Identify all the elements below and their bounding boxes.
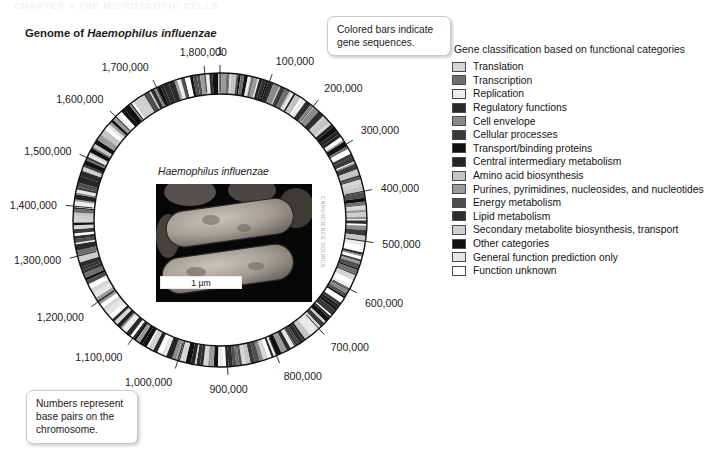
tick-label: 300,000	[361, 124, 399, 136]
legend-swatch	[452, 266, 466, 276]
page-header: CHAPTER 4 THE MICROSCOPIC CELLS	[14, 1, 219, 11]
tick-label: 600,000	[365, 297, 403, 309]
legend-swatch	[452, 89, 466, 99]
legend-swatch	[452, 171, 466, 181]
tick-label: 900,000	[209, 383, 247, 395]
tick-label: 1,200,000	[37, 311, 84, 323]
micrograph-caption: Haemophilus influenzae	[158, 166, 269, 177]
photo-credit: CNRI/SCIENCE SOURCE	[314, 196, 326, 268]
legend-item: Translation	[452, 60, 714, 74]
tick-label: 1,400,000	[10, 199, 57, 211]
legend: Gene classification based on functional …	[452, 44, 714, 278]
figure-title: Genome of Haemophilus influenzae	[25, 27, 216, 39]
legend-label: Central intermediary metabolism	[473, 156, 621, 167]
tick-label: 1,500,000	[24, 145, 71, 157]
tick-label: 1,600,000	[56, 93, 103, 105]
legend-swatch	[452, 252, 466, 262]
legend-swatch	[452, 75, 466, 85]
legend-item: Secondary metabolite biosynthesis, trans…	[452, 223, 714, 237]
tick-label: 1,300,000	[14, 254, 61, 266]
legend-swatch	[452, 62, 466, 72]
legend-swatch	[452, 184, 466, 194]
legend-item: Energy metabolism	[452, 196, 714, 210]
legend-label: Energy metabolism	[473, 197, 561, 208]
legend-rows: TranslationTranscriptionReplicationRegul…	[452, 60, 714, 278]
gene-bar	[218, 346, 223, 367]
legend-swatch	[452, 143, 466, 153]
callout-numbers-basepairs: Numbers represent base pairs on the chro…	[26, 390, 138, 444]
gene-bar	[346, 220, 367, 224]
figure-page: CHAPTER 4 THE MICROSCOPIC CELLS Genome o…	[0, 0, 716, 462]
legend-label: Amino acid biosynthesis	[473, 170, 583, 181]
figure-title-species: Haemophilus influenzae	[87, 27, 216, 39]
legend-label: Cell envelope	[473, 116, 535, 127]
callout-colored-bars: Colored bars indicate gene sequences.	[327, 16, 451, 56]
figure-title-prefix: Genome of	[25, 27, 87, 39]
tick-label: 1,800,000	[180, 46, 227, 58]
legend-swatch	[452, 157, 466, 167]
legend-item: Cellular processes	[452, 128, 714, 142]
legend-label: Transport/binding proteins	[473, 143, 592, 154]
legend-swatch	[452, 130, 466, 140]
legend-item: Replication	[452, 87, 714, 101]
legend-item: Regulatory functions	[452, 101, 714, 115]
legend-item: Function unknown	[452, 264, 714, 278]
legend-item: Transport/binding proteins	[452, 142, 714, 156]
legend-label: Translation	[473, 61, 524, 72]
legend-swatch	[452, 239, 466, 249]
tick-label: 1,700,000	[102, 61, 149, 73]
legend-label: General function prediction only	[473, 252, 618, 263]
legend-label: Secondary metabolite biosynthesis, trans…	[473, 224, 678, 235]
legend-label: Regulatory functions	[473, 102, 567, 113]
tick-label: 800,000	[284, 370, 322, 382]
micrograph-inset: Haemophilus influenzae	[150, 166, 320, 306]
gene-bar	[73, 217, 94, 221]
gene-bar	[73, 220, 94, 222]
legend-swatch	[452, 103, 466, 113]
scale-bar: 1 µm	[160, 276, 242, 289]
legend-item: Central intermediary metabolism	[452, 155, 714, 169]
tick-label: 1,100,000	[75, 351, 122, 363]
legend-swatch	[452, 225, 466, 235]
legend-item: Purines, pyrimidines, nucleosides, and n…	[452, 182, 714, 196]
tick-label: 200,000	[324, 82, 362, 94]
legend-label: Function unknown	[473, 265, 557, 276]
legend-label: Transcription	[473, 75, 532, 86]
tick-label: 700,000	[331, 341, 369, 353]
legend-label: Purines, pyrimidines, nucleosides, and n…	[473, 184, 704, 195]
legend-label: Lipid metabolism	[473, 211, 550, 222]
gene-bar	[346, 219, 367, 221]
tick-label: 1,000,000	[125, 376, 172, 388]
tick-label: 500,000	[382, 238, 420, 250]
legend-label: Cellular processes	[473, 129, 558, 140]
legend-item: Cell envelope	[452, 114, 714, 128]
legend-item: Lipid metabolism	[452, 210, 714, 224]
legend-item: Other categories	[452, 237, 714, 251]
legend-swatch	[452, 211, 466, 221]
tick-label: 400,000	[381, 182, 419, 194]
legend-item: Amino acid biosynthesis	[452, 169, 714, 183]
tick-label: 100,000	[276, 55, 314, 67]
gene-bar	[220, 73, 226, 94]
legend-swatch	[452, 198, 466, 208]
legend-title: Gene classification based on functional …	[454, 44, 714, 55]
legend-item: Transcription	[452, 74, 714, 88]
legend-swatch	[452, 116, 466, 126]
legend-item: General function prediction only	[452, 250, 714, 264]
legend-label: Replication	[473, 88, 524, 99]
legend-label: Other categories	[473, 238, 549, 249]
